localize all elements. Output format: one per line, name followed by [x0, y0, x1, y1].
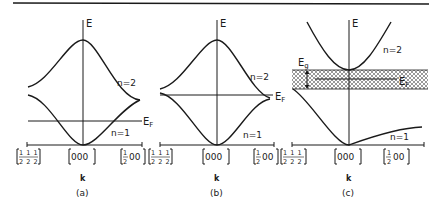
panel-c-caption: (c) [342, 188, 354, 198]
kpoint-left: 1 1 1 2 2 2 [149, 149, 172, 166]
svg-text:1: 1 [387, 149, 391, 157]
panel-a: E EF n=2 n=1 1 1 1 2 2 2 000 1 [17, 18, 153, 198]
gap-label: Eg [298, 57, 309, 70]
svg-text:2: 2 [256, 158, 260, 166]
energy-axis-label: E [86, 18, 92, 29]
band-n1-label: n=1 [390, 132, 409, 142]
kpoint-right: 1 2 00 [121, 149, 145, 166]
svg-text:2: 2 [387, 158, 391, 166]
panel-b: E EF n=2 n=1 1 1 1 2 2 2 000 1 2 00 [149, 18, 285, 198]
svg-text:2 2 2: 2 2 2 [151, 158, 170, 166]
band-n1-label: n=1 [111, 128, 130, 138]
top-rule [13, 3, 429, 4]
kpoint-center: 000 [69, 149, 95, 164]
kpoint-left: 1 1 1 2 2 2 [281, 149, 306, 166]
svg-text:1: 1 [123, 149, 127, 157]
svg-text:2 2 2: 2 2 2 [19, 158, 38, 166]
svg-text:2: 2 [123, 158, 127, 166]
k-axis-label: k [80, 174, 86, 183]
svg-text:000: 000 [337, 152, 354, 162]
energy-axis-label: E [352, 18, 358, 29]
svg-text:00: 00 [393, 152, 405, 162]
kpoint-right: 1 2 00 [254, 149, 278, 166]
energy-axis-label: E [220, 18, 226, 29]
band-n2 [28, 40, 140, 100]
svg-text:00: 00 [262, 152, 274, 162]
svg-text:1 1 1: 1 1 1 [283, 149, 302, 157]
svg-text:1: 1 [256, 149, 260, 157]
svg-text:00: 00 [129, 152, 141, 162]
svg-text:000: 000 [205, 152, 222, 162]
kpoint-center: 000 [203, 149, 229, 164]
band-n2-label: n=2 [117, 78, 136, 88]
k-axis-label: k [346, 174, 352, 183]
band-n1-label: n=1 [243, 130, 262, 140]
svg-text:1 1 1: 1 1 1 [151, 149, 170, 157]
svg-text:2 2 2: 2 2 2 [283, 158, 302, 166]
band-n2-label: n=2 [250, 72, 269, 82]
panel-a-caption: (a) [76, 188, 89, 198]
svg-text:000: 000 [71, 152, 88, 162]
svg-text:1 1 1: 1 1 1 [19, 149, 38, 157]
panel-b-caption: (b) [210, 188, 223, 198]
band-n2 [160, 40, 270, 98]
band-n2-label: n=2 [383, 45, 402, 55]
k-axis-label: k [214, 174, 220, 183]
kpoint-center: 000 [335, 149, 361, 164]
fermi-label: EF [143, 116, 153, 129]
band-structure-diagram: E EF n=2 n=1 1 1 1 2 2 2 000 1 [0, 0, 429, 208]
panel-c: E EF Eg n=2 n=1 1 1 1 2 2 2 000 [281, 18, 428, 198]
fermi-label: EF [275, 91, 285, 104]
kpoint-left: 1 1 1 2 2 2 [17, 149, 40, 166]
kpoint-right: 1 2 00 [384, 149, 409, 166]
